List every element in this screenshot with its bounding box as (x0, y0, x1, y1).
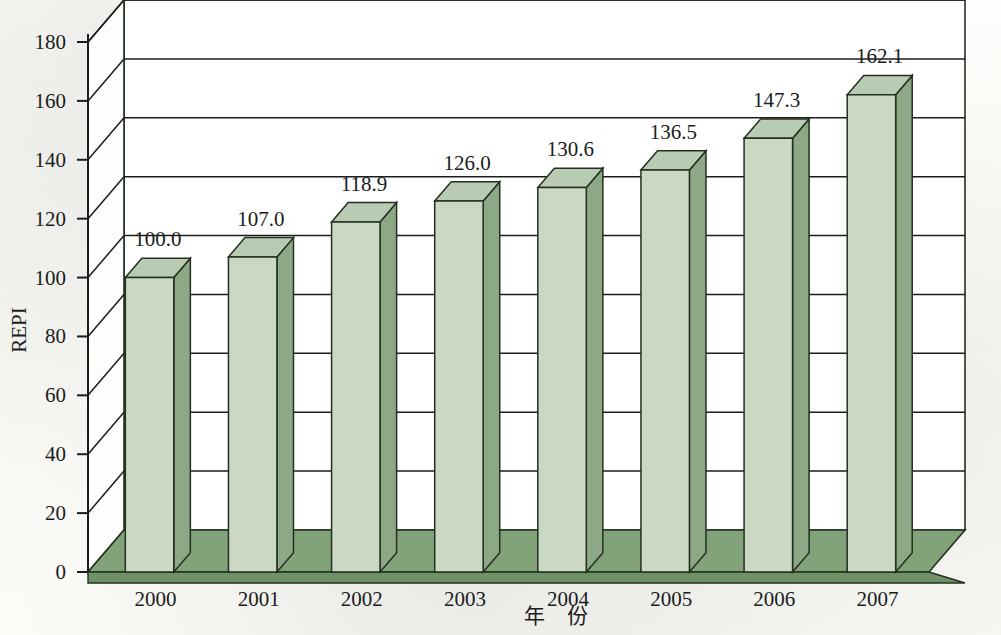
bar-value-label: 147.3 (753, 88, 800, 112)
bar-front-face (744, 138, 792, 572)
floor-top-surface (88, 530, 965, 572)
bar-side-face (896, 75, 913, 572)
bar-column (435, 182, 500, 572)
bar-front-face (125, 278, 173, 572)
bar-column (332, 203, 397, 572)
chart-floor (88, 530, 965, 583)
bar-front-face (847, 95, 895, 572)
x-axis-tick-label: 2002 (341, 587, 383, 611)
y-axis-tick-label: 180 (35, 30, 67, 54)
x-axis-tick-label: 2003 (444, 587, 486, 611)
bar-column (538, 168, 603, 572)
y-axis-tick-label: 140 (35, 148, 67, 172)
y-axis-tick-label: 40 (45, 442, 66, 466)
bar-front-face (332, 222, 380, 572)
bar-front-face (228, 257, 276, 572)
back-wall (88, 0, 965, 572)
bar-side-face (689, 151, 706, 572)
bar-value-label: 126.0 (444, 151, 491, 175)
bar-side-face (586, 168, 603, 572)
x-axis-tick-label: 2005 (650, 587, 692, 611)
left-wall-panel (88, 0, 124, 572)
y-axis-title: REPI (7, 307, 31, 353)
bar-front-face (435, 201, 483, 572)
bar-side-face (793, 119, 810, 572)
x-axis-title: 年 份 (524, 604, 595, 628)
y-axis-tick-label: 60 (45, 383, 66, 407)
bar-column (641, 151, 706, 572)
bar-value-label: 162.1 (856, 44, 903, 68)
y-axis-tick-label: 100 (35, 266, 67, 290)
bar-value-label: 107.0 (237, 207, 284, 231)
floor-front-edge (88, 572, 965, 583)
bar-value-label: 130.6 (547, 137, 594, 161)
bar-front-face (538, 187, 586, 572)
bar-value-label: 136.5 (650, 120, 697, 144)
y-axis-ticks (77, 42, 88, 572)
bar-side-face (174, 258, 191, 572)
x-axis-tick-label: 2000 (135, 587, 177, 611)
x-axis-tick-label: 2007 (856, 587, 898, 611)
bar-side-face (277, 238, 294, 572)
bar-side-face (380, 203, 397, 572)
y-axis-tick-labels: 020406080100120140160180 (35, 30, 67, 584)
bar-side-face (483, 182, 500, 572)
bar-column (847, 75, 912, 572)
bar-column (125, 258, 190, 572)
y-axis-tick-label: 0 (56, 560, 67, 584)
bar-chart-canvas: 020406080100120140160180 100.0107.0118.9… (0, 0, 1001, 635)
y-axis-tick-label: 160 (35, 89, 67, 113)
x-axis-tick-label: 2001 (238, 587, 280, 611)
bar-front-face (641, 170, 689, 572)
chart-figure: 020406080100120140160180 100.0107.0118.9… (0, 0, 1001, 635)
bar-value-label: 118.9 (341, 172, 387, 196)
x-axis-tick-labels: 20002001200220032004200520062007 (135, 587, 899, 611)
bar-column (744, 119, 809, 572)
y-axis-tick-label: 20 (45, 501, 66, 525)
bar-value-label: 100.0 (134, 227, 181, 251)
bar-column (228, 238, 293, 572)
y-axis-tick-label: 80 (45, 324, 66, 348)
y-axis-tick-label: 120 (35, 207, 67, 231)
x-axis-tick-label: 2006 (753, 587, 795, 611)
